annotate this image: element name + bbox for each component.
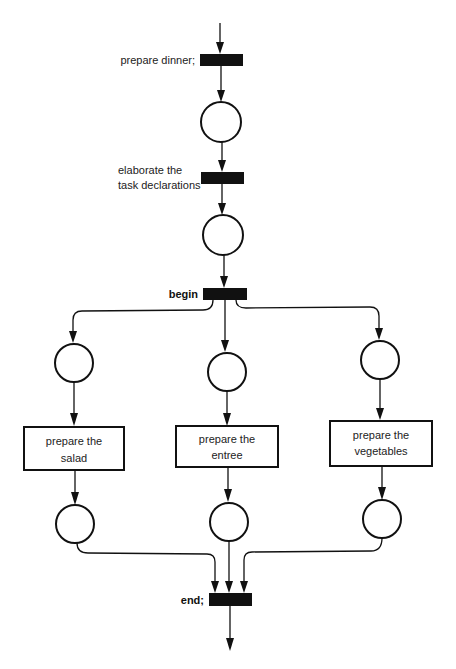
place-salad-out — [56, 505, 94, 543]
task-label-entree-line1: prepare the — [199, 433, 255, 445]
arc-begin-to-salad — [69, 300, 213, 343]
task-prepare-vegetables: prepare the vegetables — [330, 421, 432, 466]
arc-to-elaborate — [218, 142, 226, 172]
arc-to-salad-task — [70, 382, 78, 426]
place-vegetables-out — [363, 500, 401, 538]
place-entree-out — [210, 503, 248, 541]
arc-to-vegetables-task — [376, 379, 384, 420]
arc-entree-to-out — [224, 467, 232, 502]
task-label-vegetables-line1: prepare the — [353, 429, 409, 441]
arc-salad-out-to-end — [77, 543, 219, 593]
transition-label-prepare-dinner: prepare dinner; — [120, 54, 195, 66]
arc-salad-to-out — [71, 470, 79, 505]
arc-to-p1 — [217, 66, 225, 102]
transition-label-begin: begin — [169, 288, 199, 300]
arc-vegetables-out-to-end — [240, 538, 382, 593]
task-label-salad-line2: salad — [61, 452, 87, 464]
task-label-entree-line2: entree — [211, 449, 242, 461]
petri-net-diagram: prepare dinner; elaborate the task decla… — [0, 0, 456, 669]
transition-label-elaborate-line2: task declarations — [118, 179, 201, 191]
transition-begin: begin — [169, 288, 247, 300]
exit-arc — [226, 606, 234, 651]
transition-elaborate: elaborate the task declarations — [118, 164, 244, 191]
place-salad-in — [55, 344, 93, 382]
place-vegetables-in — [361, 341, 399, 379]
arc-begin-to-entree — [221, 300, 229, 352]
transition-prepare-dinner: prepare dinner; — [120, 54, 243, 66]
place-p2 — [203, 215, 243, 255]
task-label-salad-line1: prepare the — [46, 435, 102, 447]
entry-arc — [216, 23, 224, 54]
place-entree-in — [208, 353, 246, 391]
arc-begin-to-vegetables — [236, 300, 383, 340]
place-p1 — [201, 102, 241, 142]
transition-end: end; — [181, 593, 252, 606]
arc-to-entree-task — [223, 391, 231, 426]
task-prepare-salad: prepare the salad — [24, 427, 124, 470]
arc-entree-out-to-end — [225, 541, 233, 593]
transition-label-elaborate-line1: elaborate the — [118, 164, 182, 176]
task-label-vegetables-line2: vegetables — [354, 445, 408, 457]
arc-to-begin — [220, 255, 228, 288]
task-prepare-entree: prepare the entree — [176, 426, 278, 467]
arc-vegetables-to-out — [378, 466, 386, 500]
transition-label-end: end; — [181, 594, 204, 606]
arc-to-p2 — [218, 184, 226, 215]
